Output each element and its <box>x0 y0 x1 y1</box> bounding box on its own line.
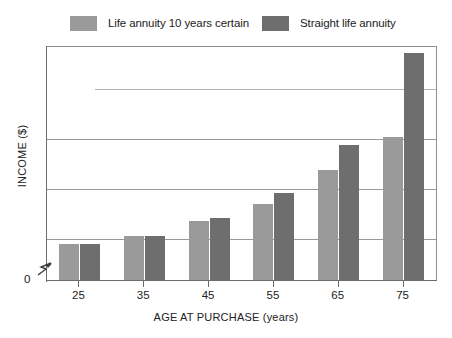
legend-swatch-dark-icon <box>262 16 289 31</box>
x-axis-tick <box>208 281 209 287</box>
bar <box>404 53 424 280</box>
legend-label: Life annuity 10 years certain <box>108 17 249 29</box>
x-axis-tick <box>143 281 144 287</box>
plot-area <box>46 46 437 281</box>
x-axis-tick-label: 75 <box>383 289 423 301</box>
bars-layer <box>47 47 436 280</box>
x-axis-tick-label: 35 <box>123 289 163 301</box>
bar <box>80 244 100 280</box>
bar <box>59 244 79 280</box>
y-axis-origin-label: 0 <box>24 273 30 285</box>
x-axis-tick-label: 45 <box>188 289 228 301</box>
legend-label: Straight life annuity <box>300 17 396 29</box>
legend-item-life-annuity-10-years-certain: Life annuity 10 years certain <box>70 12 249 34</box>
bar <box>189 221 209 280</box>
x-axis-tick <box>78 281 79 287</box>
y-axis-line <box>46 46 47 282</box>
x-axis-tick <box>273 281 274 287</box>
bar-chart: Life annuity 10 years certain Straight l… <box>0 0 452 338</box>
legend-swatch-light-icon <box>70 16 97 31</box>
x-axis-tick-label: 25 <box>58 289 98 301</box>
x-axis-tick <box>338 281 339 287</box>
x-axis-tick <box>403 281 404 287</box>
bar <box>124 236 144 280</box>
bar <box>145 236 165 280</box>
bar <box>339 145 359 280</box>
axis-break-icon <box>37 262 56 279</box>
y-axis-title: INCOME ($) <box>16 101 28 211</box>
bar <box>210 218 230 280</box>
bar <box>253 204 273 280</box>
bar <box>274 193 294 280</box>
bar <box>383 137 403 280</box>
legend-item-straight-life-annuity: Straight life annuity <box>262 12 396 34</box>
chart-legend: Life annuity 10 years certain Straight l… <box>0 12 452 34</box>
bar <box>318 170 338 280</box>
x-axis-title: AGE AT PURCHASE (years) <box>0 311 452 323</box>
x-axis-tick-label: 65 <box>318 289 358 301</box>
x-axis-tick-label: 55 <box>253 289 293 301</box>
